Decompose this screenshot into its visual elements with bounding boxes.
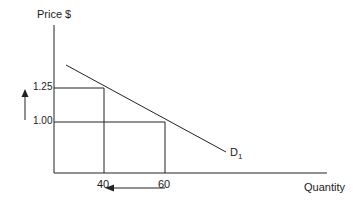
x-tick-60: 60 — [158, 178, 170, 190]
x-axis-label: Quantity — [304, 181, 345, 193]
x-tick-40: 40 — [97, 178, 109, 190]
left-arrow-icon — [105, 185, 165, 192]
y-axis-label: Price $ — [37, 8, 71, 20]
curve-label-main: D — [230, 146, 238, 158]
curve-label-subscript: 1 — [238, 152, 242, 161]
y-tick-1-00: 1.00 — [33, 115, 52, 126]
curve-label-d1: D1 — [230, 146, 242, 161]
y-tick-1-25: 1.25 — [33, 81, 52, 92]
demand-chart — [0, 0, 359, 210]
up-arrow-icon — [22, 89, 29, 120]
demand-curve-d1 — [66, 65, 226, 152]
